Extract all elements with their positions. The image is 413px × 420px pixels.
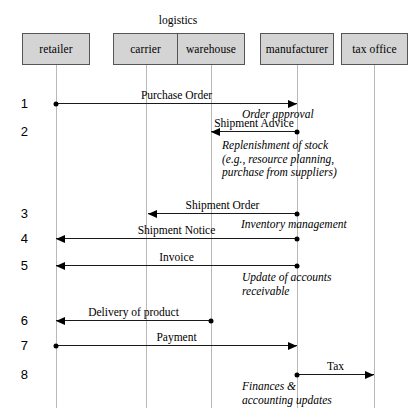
message-label-purchase-order: Purchase Order xyxy=(141,89,212,101)
actor-box-retailer[interactable]: retailer xyxy=(22,33,90,65)
message-origin-dot-invoice xyxy=(295,263,300,268)
annotation-finances-accounting: Finances & accounting updates xyxy=(242,380,332,407)
step-number-3: 3 xyxy=(6,206,28,221)
step-number-8: 8 xyxy=(6,367,28,382)
message-origin-dot-shipment-notice xyxy=(295,236,300,241)
message-origin-dot-shipment-order xyxy=(295,211,300,216)
message-line-invoice xyxy=(56,265,297,266)
message-arrowhead-shipment-notice xyxy=(56,235,65,243)
actor-label: tax office xyxy=(352,43,397,55)
message-arrowhead-tax xyxy=(365,371,374,379)
message-line-delivery-of-product xyxy=(56,320,211,321)
message-origin-dot-tax xyxy=(295,372,300,377)
sequence-diagram: logisticsretailercarrierwarehousemanufac… xyxy=(0,0,413,420)
step-number-5: 5 xyxy=(6,258,28,273)
message-origin-dot-purchase-order xyxy=(54,101,59,106)
message-origin-dot-payment xyxy=(54,343,59,348)
actor-label: warehouse xyxy=(186,43,236,55)
actor-label: manufacturer xyxy=(266,43,329,55)
step-number-2: 2 xyxy=(6,124,28,139)
message-label-payment: Payment xyxy=(156,331,196,343)
message-line-purchase-order xyxy=(56,103,297,104)
message-line-payment xyxy=(56,345,297,346)
message-line-tax xyxy=(297,374,374,375)
message-arrowhead-purchase-order xyxy=(288,100,297,108)
message-line-shipment-order xyxy=(148,213,297,214)
message-label-shipment-order: Shipment Order xyxy=(186,199,260,211)
message-label-delivery-of-product: Delivery of product xyxy=(88,306,179,318)
message-origin-dot-delivery-of-product xyxy=(209,318,214,323)
lifeline-warehouse xyxy=(211,65,212,408)
step-number-7: 7 xyxy=(6,338,28,353)
lifeline-tax-office xyxy=(374,65,375,408)
annotation-replenishment-of-stock: Replenishment of stock (e.g., resource p… xyxy=(222,139,337,180)
message-label-invoice: Invoice xyxy=(159,251,193,263)
annotation-inventory-management: Inventory management xyxy=(241,218,347,232)
annotation-order-approval: Order approval xyxy=(242,108,314,122)
message-label-shipment-notice: Shipment Notice xyxy=(138,224,216,236)
message-arrowhead-payment xyxy=(288,342,297,350)
annotation-update-of-accounts: Update of accounts receivable xyxy=(242,271,331,298)
message-origin-dot-shipment-advice xyxy=(295,129,300,134)
actor-box-carrier[interactable]: carrier xyxy=(113,33,178,65)
message-line-shipment-advice xyxy=(211,131,297,132)
step-number-4: 4 xyxy=(6,231,28,246)
message-label-tax: Tax xyxy=(327,360,344,372)
step-number-6: 6 xyxy=(6,313,28,328)
actor-label: carrier xyxy=(130,43,161,55)
message-arrowhead-delivery-of-product xyxy=(56,317,65,325)
message-arrowhead-shipment-order xyxy=(148,210,157,218)
step-number-1: 1 xyxy=(6,96,28,111)
actor-box-manufacturer[interactable]: manufacturer xyxy=(260,33,334,65)
message-arrowhead-invoice xyxy=(56,262,65,270)
lifeline-carrier xyxy=(146,65,147,408)
group-label-logistics: logistics xyxy=(159,14,197,26)
actor-label: retailer xyxy=(39,43,72,55)
actor-box-warehouse[interactable]: warehouse xyxy=(178,33,245,65)
message-line-shipment-notice xyxy=(56,238,297,239)
actor-box-tax-office[interactable]: tax office xyxy=(341,33,408,65)
